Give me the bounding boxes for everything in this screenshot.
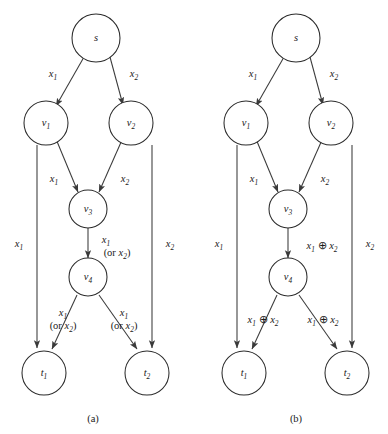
edge-label-s-v2: x2 xyxy=(329,68,339,82)
caption-b: (b) xyxy=(290,413,303,425)
caption-a: (a) xyxy=(87,413,99,425)
edge-v1-to-v3 xyxy=(56,139,78,192)
edge-label-v1-v3: x1 xyxy=(249,173,258,187)
edge-label-v4-t2-line1: x1 xyxy=(119,307,128,321)
node-label-s: s xyxy=(294,32,298,43)
edge-s-to-v1 xyxy=(256,57,284,106)
figure-root: s v1 v2 v3 v4 t1 t2 x1 x2 x1 x2 x1 x2 x1… xyxy=(0,0,388,434)
edge-label-v4-t1-line1: x1 xyxy=(58,307,67,321)
diagram-panel-a: s v1 v2 v3 v4 t1 t2 x1 x2 x1 x2 x1 x2 x1… xyxy=(0,0,194,434)
edge-label-v4-t1-line2: (or x2) xyxy=(50,320,77,334)
edge-v1-to-v3 xyxy=(256,139,278,192)
edge-label-v2-v3: x2 xyxy=(120,173,130,187)
edge-label-v1-t1: x1 xyxy=(14,238,23,252)
edge-label-v3-v4-line1: x1 xyxy=(101,234,110,248)
edge-s-to-v2 xyxy=(310,57,323,105)
edge-label-s-v1: x1 xyxy=(248,68,257,82)
edge-v2-to-v3 xyxy=(99,140,122,192)
edge-s-to-v2 xyxy=(110,57,123,105)
edge-label-v3-v4: x1 ⊕ x2 xyxy=(306,240,338,254)
edge-label-s-v2: x2 xyxy=(129,68,139,82)
edge-label-v1-t1: x1 xyxy=(214,238,223,252)
edge-label-v2-t2: x2 xyxy=(165,238,175,252)
edge-label-v4-t2: x1 ⊕ x2 xyxy=(307,314,339,328)
edge-v2-to-v3 xyxy=(299,140,322,192)
edge-label-s-v1: x1 xyxy=(48,68,57,82)
edge-label-v2-v3: x2 xyxy=(320,173,330,187)
node-label-s: s xyxy=(94,32,98,43)
edge-label-v2-t2: x2 xyxy=(365,238,375,252)
edge-s-to-v1 xyxy=(56,57,84,106)
diagram-panel-b: s v1 v2 v3 v4 t1 t2 x1 x2 x1 x2 x1 x2 x1… xyxy=(194,0,388,434)
edge-label-v1-v3: x1 xyxy=(49,173,58,187)
edge-label-v3-v4-line2: (or x2) xyxy=(104,247,131,261)
